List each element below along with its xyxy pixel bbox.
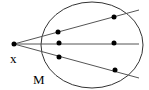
ray-point xyxy=(57,55,62,60)
ray-point xyxy=(112,41,117,46)
ray-upper xyxy=(14,10,139,44)
ray-point xyxy=(57,41,62,46)
region-m-label: M xyxy=(33,72,45,87)
point-x xyxy=(12,42,17,47)
point-x-label: x xyxy=(10,51,17,66)
ray-point xyxy=(56,30,61,35)
ray-point xyxy=(113,68,118,73)
diagram: x M xyxy=(0,0,149,90)
ray-point xyxy=(112,15,117,20)
